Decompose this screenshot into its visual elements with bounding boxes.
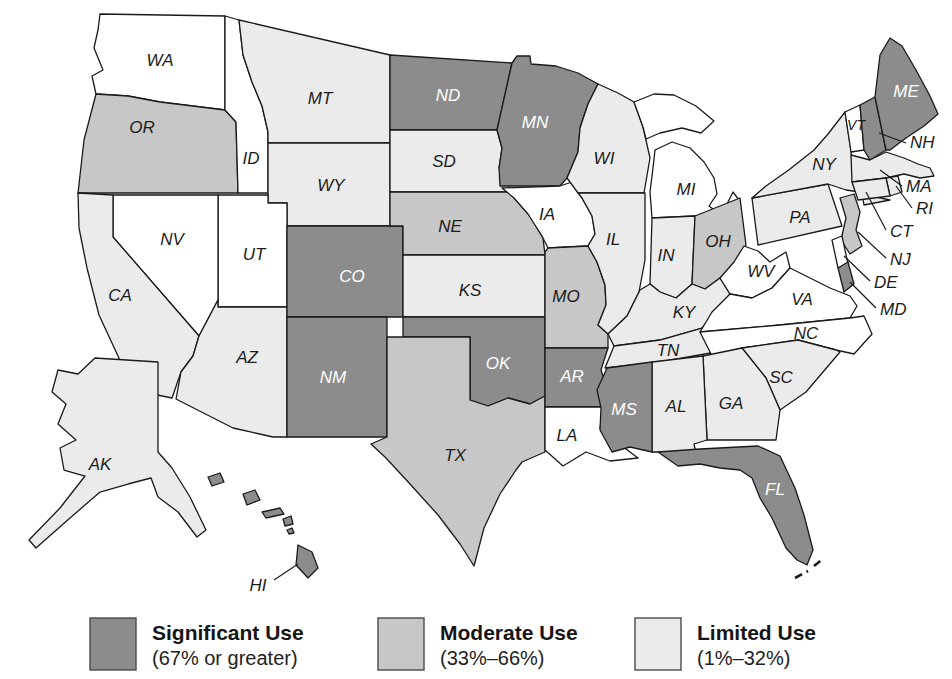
state-label-IA: IA	[539, 205, 555, 224]
state-label-NJ: NJ	[890, 250, 911, 269]
state-label-NM: NM	[320, 368, 347, 387]
state-label-KY: KY	[673, 303, 697, 322]
state-label-MD: MD	[880, 300, 906, 319]
state-label-NE: NE	[438, 217, 462, 236]
state-label-AK: AK	[88, 455, 112, 474]
state-label-HI: HI	[250, 576, 267, 595]
legend-item-significant: Significant Use (67% or greater)	[90, 618, 304, 670]
state-label-KS: KS	[459, 281, 482, 300]
legend-range-limited: (1%–32%)	[697, 647, 790, 669]
legend-swatch-moderate	[378, 618, 424, 670]
state-label-AZ: AZ	[235, 348, 258, 367]
state-label-CO: CO	[339, 267, 365, 286]
state-label-LA: LA	[557, 426, 578, 445]
legend-item-moderate: Moderate Use (33%–66%)	[378, 618, 578, 670]
state-label-CT: CT	[890, 222, 914, 241]
state-label-VA: VA	[791, 290, 813, 309]
state-label-SD: SD	[432, 152, 456, 171]
state-label-FL: FL	[765, 480, 785, 499]
state-label-MT: MT	[308, 89, 334, 108]
state-label-WV: WV	[747, 262, 776, 281]
legend-label-moderate: Moderate Use	[440, 621, 578, 644]
state-CT	[852, 178, 890, 200]
state-label-ND: ND	[436, 86, 461, 105]
legend-label-limited: Limited Use	[697, 621, 816, 644]
state-label-AL: AL	[665, 397, 687, 416]
state-label-UT: UT	[243, 245, 267, 264]
state-OR	[78, 94, 238, 193]
state-FL	[658, 446, 813, 565]
state-label-MA: MA	[906, 177, 932, 196]
leader-HI	[274, 564, 298, 580]
state-label-OH: OH	[705, 232, 731, 251]
state-label-PA: PA	[789, 208, 810, 227]
us-usage-choropleth-map: WA OR CA NV ID MT WY UT AZ CO NM ND SD N…	[0, 0, 952, 679]
state-label-IN: IN	[658, 246, 676, 265]
legend-item-limited: Limited Use (1%–32%)	[635, 618, 816, 670]
state-label-WI: WI	[594, 149, 615, 168]
state-label-OR: OR	[129, 118, 155, 137]
state-label-GA: GA	[719, 394, 744, 413]
state-label-DE: DE	[874, 273, 898, 292]
state-label-WA: WA	[146, 51, 173, 70]
state-label-IL: IL	[606, 230, 620, 249]
state-label-ID: ID	[243, 149, 260, 168]
state-label-SC: SC	[769, 368, 793, 387]
state-label-MO: MO	[552, 287, 579, 306]
state-label-VT: VT	[847, 117, 866, 133]
state-label-ME: ME	[893, 82, 919, 101]
state-label-MS: MS	[611, 400, 637, 419]
state-HI	[208, 473, 318, 578]
state-label-RI: RI	[916, 199, 933, 218]
legend-range-significant: (67% or greater)	[152, 647, 298, 669]
legend: Significant Use (67% or greater) Moderat…	[90, 618, 816, 670]
state-label-CA: CA	[108, 286, 132, 305]
state-label-TX: TX	[444, 446, 466, 465]
legend-label-significant: Significant Use	[152, 621, 304, 644]
state-label-TN: TN	[657, 341, 680, 360]
legend-range-moderate: (33%–66%)	[440, 647, 545, 669]
state-MD	[838, 262, 854, 292]
state-label-NH: NH	[910, 133, 935, 152]
state-label-OK: OK	[486, 354, 511, 373]
legend-swatch-significant	[90, 618, 136, 670]
state-label-MI: MI	[677, 180, 696, 199]
state-label-WY: WY	[317, 176, 346, 195]
state-label-NC: NC	[794, 324, 819, 343]
state-label-NV: NV	[160, 230, 185, 249]
state-label-NY: NY	[812, 155, 837, 174]
legend-swatch-limited	[635, 618, 681, 670]
state-label-MN: MN	[522, 113, 549, 132]
state-label-AR: AR	[559, 367, 584, 386]
